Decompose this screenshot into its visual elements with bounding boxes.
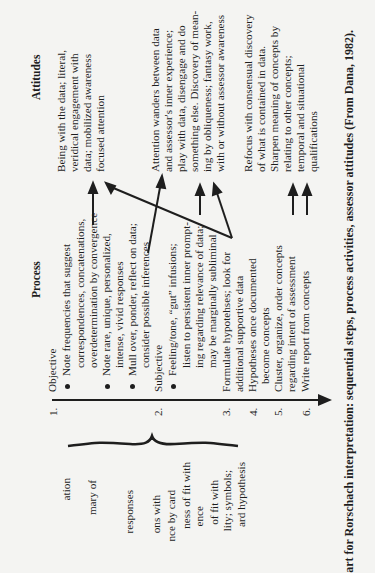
step-title: Subjective [152, 345, 165, 392]
arrow [289, 185, 297, 215]
step-title: Hypotheses once documented [246, 258, 259, 392]
attitude-line: of what is contained in data. [255, 46, 268, 172]
bullet-text: Feeling/tone, “gut” infusions; [166, 243, 179, 376]
attitude-line: Refocus with consensual discovery [242, 14, 255, 172]
bullet-icon [171, 384, 176, 389]
bullet-icon [65, 384, 70, 389]
attitude-line: something else. Discovery of mean- [188, 11, 201, 172]
step-title: Write report from concepts [299, 271, 312, 392]
step-number: 2. [152, 408, 164, 416]
step-number: 1. [47, 408, 59, 416]
attitude-line: focused attention [94, 95, 107, 172]
bullet-text: correspondences, concatenations, [74, 219, 87, 368]
step-cont: regarding intent of assessment [285, 256, 298, 392]
arrow [196, 185, 204, 215]
step-title: Objective [46, 349, 59, 393]
step-number: 4. [247, 408, 259, 416]
arrow [303, 185, 311, 215]
timeline-arrowhead [318, 394, 332, 406]
bullet-icon [105, 384, 110, 389]
step-number: 3. [220, 408, 232, 416]
attitude-line: with or without assessor awareness [214, 15, 227, 172]
bullet-text: Mull over, ponder, reflect on data; [126, 223, 139, 376]
bullet-text: listen to persistent inner prompt- [180, 222, 193, 368]
bullet-text: ing regarding relevance of data; [193, 226, 206, 368]
bullet-text: consider possible inferences [139, 242, 152, 368]
bullet-text: Note rare, unique, personalized, [100, 233, 113, 376]
step-number: 6. [300, 408, 312, 416]
attitude-line: relating to other concepts; [281, 56, 294, 173]
figure-caption: art for Rorschach interpretation: sequen… [342, 30, 357, 573]
bullet-text: may be marginally subliminal [206, 234, 219, 368]
bullet-text: intense, vivid responses [113, 261, 126, 368]
bullet-text: overdetermination by convergence [87, 213, 100, 368]
attitude-line: Attention wanders between data [149, 28, 162, 172]
curly-brace [68, 436, 238, 446]
step-cont: additional supportive data [233, 276, 246, 392]
step-cont: become concepts [259, 307, 272, 384]
step-title: Cluster, organize, order concepts [272, 245, 285, 392]
attitude-line: and assessor's inner experience; [162, 30, 175, 172]
bullet-icon [130, 384, 135, 389]
attitude-line: ing by obliqueness; fantasy work, [201, 21, 214, 172]
step-number: 5. [272, 408, 284, 416]
step-title: Formulate hypotehses; look for [220, 252, 233, 392]
attitude-line: play with data, disengage and do [175, 25, 188, 172]
attitude-line: qualifications [307, 111, 320, 172]
attitude-line: Sharpen meaning of concepts by [268, 26, 281, 172]
attitude-line: data; mobilized awareness [81, 54, 94, 172]
arrow [213, 184, 232, 238]
attitude-line: temporal and situational [294, 64, 307, 172]
bullet-text: Note frequencies that suggest [60, 244, 73, 376]
attitude-line: veridical engagement with [68, 53, 81, 172]
attitude-line: Being with the data; literal, [55, 50, 68, 172]
